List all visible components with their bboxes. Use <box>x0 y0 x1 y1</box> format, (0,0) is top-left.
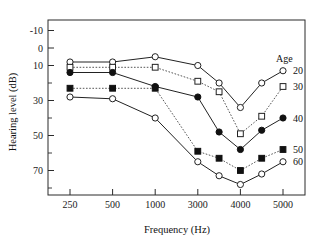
data-point <box>195 62 201 68</box>
data-point <box>152 64 158 70</box>
legend-title: Age <box>276 53 293 64</box>
y-tick-label: 0 <box>38 43 43 54</box>
x-tick-label: 4000 <box>230 199 250 210</box>
y-tick-label: 30 <box>33 95 43 106</box>
legend-label-age-40: 40 <box>293 113 303 124</box>
data-point <box>259 80 265 86</box>
data-point <box>195 159 201 165</box>
data-point <box>216 80 222 86</box>
data-point <box>110 96 116 102</box>
data-point <box>280 159 286 165</box>
data-point <box>259 113 265 119</box>
x-tick-label: 3000 <box>188 199 208 210</box>
x-axis-title: Frequency (Hz) <box>144 224 211 236</box>
chart-canvas: -10010305070 2505001000300040005000 2030… <box>0 0 319 241</box>
data-point <box>237 146 243 152</box>
data-point <box>259 155 265 161</box>
data-point <box>216 89 222 95</box>
legend-label-age-20: 20 <box>293 65 303 76</box>
data-point <box>195 94 201 100</box>
data-point <box>280 68 286 74</box>
data-point <box>216 173 222 179</box>
x-tick-label: 5000 <box>273 199 293 210</box>
data-point <box>237 181 243 187</box>
data-point <box>152 115 158 121</box>
y-tick-label: 50 <box>33 130 43 141</box>
data-point <box>110 69 116 75</box>
data-point <box>195 78 201 84</box>
y-tick-label: 70 <box>33 165 43 176</box>
data-point <box>195 148 201 154</box>
data-point <box>280 115 286 121</box>
data-point <box>259 127 265 133</box>
legend-label-age-50: 50 <box>293 144 303 155</box>
data-point <box>280 84 286 90</box>
data-point <box>237 104 243 110</box>
data-point <box>216 129 222 135</box>
data-point <box>152 54 158 60</box>
data-point <box>280 147 286 153</box>
data-point <box>259 171 265 177</box>
legend: 2030405060 <box>293 65 303 167</box>
data-point <box>67 94 73 100</box>
y-tick-label: 10 <box>33 60 43 71</box>
data-point <box>67 69 73 75</box>
x-tick-label: 500 <box>105 199 120 210</box>
data-point <box>152 85 158 91</box>
data-point <box>238 168 244 174</box>
hearing-level-chart: -10010305070 2505001000300040005000 2030… <box>0 0 319 241</box>
data-point <box>67 85 73 91</box>
data-point <box>216 155 222 161</box>
legend-label-age-30: 30 <box>293 81 303 92</box>
data-point <box>110 85 116 91</box>
y-axis-title: Hearing level (dB) <box>7 72 19 151</box>
y-tick-label: -10 <box>30 25 43 36</box>
data-point <box>238 131 244 137</box>
legend-label-age-60: 60 <box>293 156 303 167</box>
x-tick-label: 250 <box>63 199 78 210</box>
x-tick-label: 1000 <box>145 199 165 210</box>
